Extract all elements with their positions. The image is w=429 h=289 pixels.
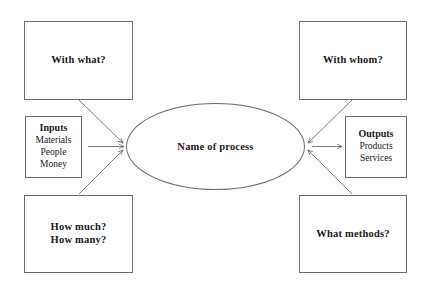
question-box-with-what[interactable]: With what? — [24, 21, 133, 100]
process-ellipse[interactable]: Name of process — [126, 103, 305, 190]
connector-how-much-to-process — [79, 150, 123, 194]
inputs-box[interactable]: Inputs Materials People Money — [25, 116, 82, 178]
connector-with-what-to-process — [79, 100, 123, 143]
question-box-with-whom[interactable]: With whom? — [299, 21, 407, 100]
inputs-box-item-people: People — [41, 147, 67, 159]
question-box-how-much-line-1: How much? — [51, 221, 107, 234]
outputs-box-item-services: Services — [360, 153, 392, 165]
question-box-what-methods[interactable]: What methods? — [299, 195, 407, 273]
inputs-box-item-materials: Materials — [36, 135, 72, 147]
question-box-with-whom-line-1: With whom? — [323, 54, 383, 67]
question-box-with-what-line-1: With what? — [51, 54, 106, 67]
inputs-box-title: Inputs — [40, 122, 68, 134]
inputs-box-item-money: Money — [40, 159, 67, 171]
outputs-box-title: Outputs — [358, 128, 393, 140]
process-ellipse-label: Name of process — [177, 141, 253, 152]
process-diagram-canvas: With what? With whom? How much? How many… — [0, 0, 429, 289]
outputs-box-item-products: Products — [359, 141, 392, 153]
question-box-what-methods-line-1: What methods? — [316, 228, 389, 241]
question-box-how-much-line-2: How many? — [51, 234, 107, 247]
question-box-how-much[interactable]: How much? How many? — [24, 195, 133, 273]
outputs-box[interactable]: Outputs Products Services — [345, 116, 407, 178]
